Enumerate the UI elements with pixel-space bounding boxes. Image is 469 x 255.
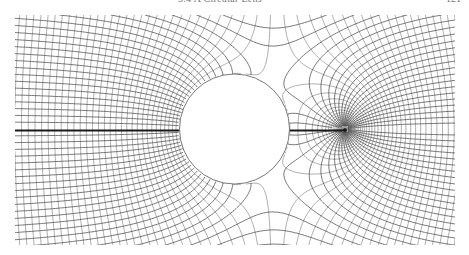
line-charge-source xyxy=(343,128,347,132)
conducting-cylinder xyxy=(180,74,290,184)
field-plot-figure xyxy=(0,0,469,255)
field-plot xyxy=(0,0,469,255)
